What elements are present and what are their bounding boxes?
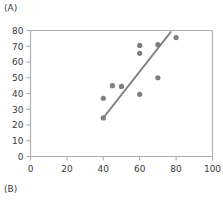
x-axis-tick-label: 100 [204, 164, 221, 174]
data-point [137, 51, 142, 56]
y-axis-tick-label: 50 [12, 73, 24, 83]
regression-line [103, 32, 170, 118]
y-axis-tick-label: 20 [12, 120, 24, 130]
x-axis-tick-label: 20 [61, 164, 73, 174]
x-axis-tick-label: 40 [98, 164, 110, 174]
x-axis-tick-label: 80 [170, 164, 182, 174]
axis-ticks-group [27, 31, 213, 161]
x-axis-tick-label: 60 [134, 164, 146, 174]
data-point [155, 42, 160, 47]
y-axis-tick-label: 70 [12, 42, 24, 52]
x-axis-tick-label: 0 [28, 164, 34, 174]
y-axis-tick-label: 30 [12, 105, 24, 115]
y-axis-tick-label: 10 [12, 136, 24, 146]
data-point [137, 43, 142, 48]
data-point [110, 83, 115, 88]
trend-line [103, 32, 170, 118]
y-axis-tick-label: 40 [12, 89, 24, 99]
scatter-plot: 01020304050607080020406080100 [0, 0, 223, 202]
y-axis-tick-label: 0 [18, 152, 24, 162]
data-point [137, 92, 142, 97]
data-point [119, 84, 124, 89]
y-axis-tick-label: 80 [12, 26, 24, 36]
data-point [101, 96, 106, 101]
data-point [101, 115, 106, 120]
figure-container: (A) 01020304050607080020406080100 (B) [0, 0, 223, 202]
data-point [174, 35, 179, 40]
panel-label-b: (B) [4, 184, 17, 194]
data-point [155, 75, 160, 80]
y-axis-tick-label: 60 [12, 57, 24, 67]
